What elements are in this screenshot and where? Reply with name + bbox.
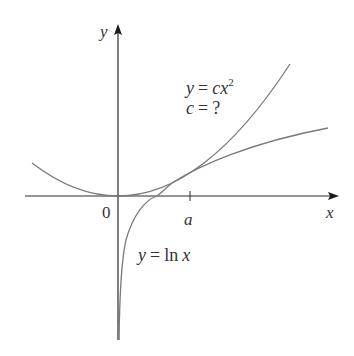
log-var: x xyxy=(181,245,190,265)
log-equation: y=lnx xyxy=(136,245,190,265)
parabola-curve xyxy=(32,64,290,196)
parabola-rhs: cx xyxy=(212,78,228,98)
log-fn: ln xyxy=(164,245,178,265)
log-curve xyxy=(119,128,328,340)
parabola-eq: = xyxy=(198,78,208,98)
tick-a-label: a xyxy=(184,210,193,229)
parabola-question: c=? xyxy=(186,98,220,118)
y-axis-label: y xyxy=(98,22,108,41)
parabola-exponent: 2 xyxy=(228,76,234,88)
log-lhs: y xyxy=(136,245,146,265)
question-lhs: c xyxy=(186,98,194,118)
parabola-lhs: y xyxy=(184,78,194,98)
log-eq: = xyxy=(150,245,160,265)
origin-label: 0 xyxy=(102,203,111,222)
question-rhs: ? xyxy=(212,98,220,118)
x-axis-label: x xyxy=(325,203,334,222)
tangent-curves-diagram: y x 0 a y=cx2 c=? y=lnx xyxy=(0,0,354,356)
parabola-equation: y=cx2 xyxy=(184,76,234,98)
question-eq: = xyxy=(198,98,208,118)
